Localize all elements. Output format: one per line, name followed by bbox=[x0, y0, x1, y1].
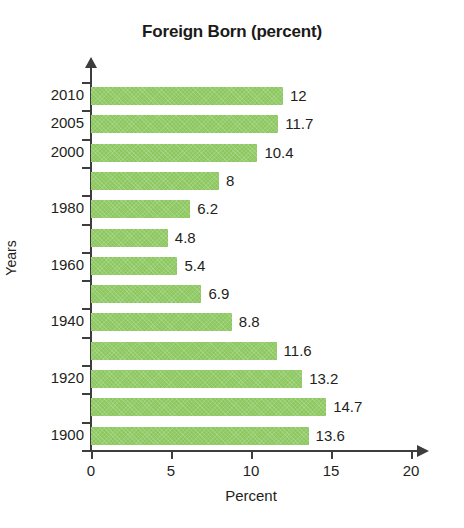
y-axis-tick bbox=[82, 224, 91, 226]
y-axis-tick bbox=[82, 252, 91, 254]
bar-value-label: 14.7 bbox=[333, 397, 362, 416]
y-axis-title: Years bbox=[3, 228, 19, 288]
bar-value-label: 8 bbox=[226, 171, 234, 190]
x-axis-line bbox=[90, 450, 419, 452]
x-axis-tick-label: 0 bbox=[71, 462, 111, 479]
y-axis-tick bbox=[82, 393, 91, 395]
y-axis-tick bbox=[82, 337, 91, 339]
x-axis-tick bbox=[171, 450, 173, 459]
bar-value-label: 13.2 bbox=[309, 369, 338, 388]
y-axis-tick-label: 1940 bbox=[0, 312, 84, 330]
bar bbox=[91, 257, 177, 275]
y-axis-tick bbox=[82, 110, 91, 112]
y-axis-tick-label: 1920 bbox=[0, 369, 84, 387]
bar-value-label: 10.4 bbox=[264, 143, 293, 162]
bar bbox=[91, 87, 283, 105]
x-axis-tick bbox=[91, 450, 93, 459]
y-axis-tick bbox=[82, 167, 91, 169]
y-axis-tick bbox=[82, 450, 91, 452]
bar bbox=[91, 427, 309, 445]
y-axis-tick-label: 2010 bbox=[0, 86, 84, 104]
x-axis-tick bbox=[331, 450, 333, 459]
y-axis-tick bbox=[82, 365, 91, 367]
y-axis-tick bbox=[82, 82, 91, 84]
y-axis-tick-label: 2005 bbox=[0, 114, 84, 132]
bar-value-label: 11.6 bbox=[284, 341, 312, 360]
x-axis-tick bbox=[251, 450, 253, 459]
bar-value-label: 13.6 bbox=[316, 426, 345, 445]
bar-value-label: 4.8 bbox=[175, 228, 196, 247]
x-axis-tick-label: 10 bbox=[231, 462, 271, 479]
y-axis-tick bbox=[82, 280, 91, 282]
y-axis-tick bbox=[82, 139, 91, 141]
bar bbox=[91, 144, 257, 162]
y-axis-arrow-icon bbox=[85, 57, 97, 68]
bar bbox=[91, 313, 232, 331]
bar-value-label: 12 bbox=[290, 86, 307, 105]
bar bbox=[91, 172, 219, 190]
x-axis-tick bbox=[411, 450, 413, 459]
plot-area: 1211.710.486.24.85.46.98.811.613.214.713… bbox=[0, 0, 464, 528]
bar-value-label: 11.7 bbox=[285, 114, 313, 133]
bar-value-label: 6.2 bbox=[197, 199, 218, 218]
bar bbox=[91, 229, 168, 247]
x-axis-tick-label: 20 bbox=[391, 462, 431, 479]
bar bbox=[91, 398, 326, 416]
y-axis-tick-label: 1980 bbox=[0, 199, 84, 217]
x-axis-tick-label: 5 bbox=[151, 462, 191, 479]
y-axis-tick-label: 2000 bbox=[0, 143, 84, 161]
bar bbox=[91, 115, 278, 133]
bar bbox=[91, 285, 201, 303]
bar-value-label: 6.9 bbox=[208, 284, 229, 303]
y-axis-tick bbox=[82, 422, 91, 424]
x-axis-arrow-icon bbox=[417, 445, 429, 457]
x-axis-title: Percent bbox=[91, 487, 411, 504]
y-axis-tick bbox=[82, 308, 91, 310]
bar-value-label: 5.4 bbox=[184, 256, 205, 275]
bar-value-label: 8.8 bbox=[239, 312, 260, 331]
x-axis-tick-label: 15 bbox=[311, 462, 351, 479]
bar bbox=[91, 370, 302, 388]
y-axis-tick-label: 1900 bbox=[0, 426, 84, 444]
bar bbox=[91, 342, 277, 360]
bar bbox=[91, 200, 190, 218]
y-axis-tick bbox=[82, 195, 91, 197]
bar-chart: Foreign Born (percent) 1211.710.486.24.8… bbox=[0, 0, 464, 528]
